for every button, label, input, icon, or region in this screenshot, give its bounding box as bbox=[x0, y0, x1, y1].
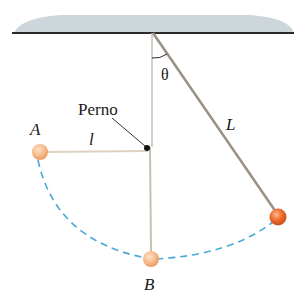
short-length-label: l bbox=[89, 130, 94, 149]
peg-label: Perno bbox=[78, 100, 118, 119]
ceiling-support bbox=[14, 15, 294, 33]
pendulum-rod bbox=[153, 33, 276, 212]
angle-label: θ bbox=[161, 66, 169, 83]
point-a-label: A bbox=[29, 120, 41, 139]
peg-pointer-line bbox=[112, 118, 145, 146]
arc-a-to-b bbox=[38, 160, 146, 258]
point-b-label: B bbox=[144, 275, 155, 294]
long-length-label: L bbox=[225, 115, 235, 134]
ball-b bbox=[143, 251, 159, 267]
string-to-b bbox=[150, 147, 151, 252]
ball-swing bbox=[270, 209, 287, 226]
string-to-a bbox=[44, 151, 148, 152]
angle-arc bbox=[152, 54, 167, 58]
arc-b-to-right bbox=[156, 222, 273, 259]
ball-a bbox=[32, 144, 48, 160]
pendulum-peg-diagram: θ Perno A l L B bbox=[0, 0, 308, 305]
